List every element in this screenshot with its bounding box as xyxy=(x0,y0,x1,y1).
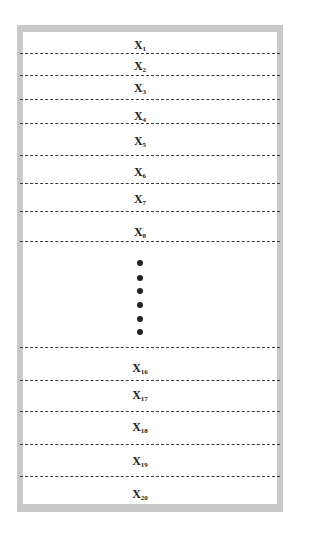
row-label: X7 xyxy=(100,193,180,209)
row-label-name: X xyxy=(134,81,143,95)
row-label-subscript: 3 xyxy=(143,88,147,96)
row-label-name: X xyxy=(134,38,143,52)
row-label-name: X xyxy=(132,388,141,402)
divider-line xyxy=(20,380,280,381)
row-label-subscript: 18 xyxy=(141,427,148,435)
row-label-name: X xyxy=(132,361,141,375)
row-label: X6 xyxy=(100,166,180,182)
row-label-name: X xyxy=(134,134,143,148)
row-label: X8 xyxy=(100,226,180,242)
divider-line xyxy=(20,155,280,156)
dot-icon xyxy=(137,329,143,335)
row-label-subscript: 4 xyxy=(143,116,147,124)
divider-line xyxy=(20,444,280,445)
divider-line xyxy=(20,183,280,184)
row-label-subscript: 2 xyxy=(143,66,147,74)
row-label-name: X xyxy=(134,59,143,73)
row-label: X16 xyxy=(100,362,180,378)
dot-icon xyxy=(137,316,143,322)
divider-line xyxy=(20,211,280,212)
row-label-name: X xyxy=(134,192,143,206)
row-label-name: X xyxy=(134,109,143,123)
divider-line xyxy=(20,476,280,477)
row-label-name: X xyxy=(132,487,141,501)
row-label-subscript: 6 xyxy=(143,172,147,180)
row-label-subscript: 1 xyxy=(143,45,147,53)
row-label: X19 xyxy=(100,455,180,471)
dot-icon xyxy=(137,302,143,308)
row-label: X1 xyxy=(100,39,180,55)
dot-icon xyxy=(137,275,143,281)
row-label: X2 xyxy=(100,60,180,76)
row-label: X5 xyxy=(100,135,180,151)
row-label: X17 xyxy=(100,389,180,405)
divider-line xyxy=(20,99,280,100)
divider-line xyxy=(20,347,280,348)
dot-icon xyxy=(137,288,143,294)
row-label: X18 xyxy=(100,421,180,437)
row-label-subscript: 17 xyxy=(141,395,148,403)
row-label-subscript: 7 xyxy=(143,199,147,207)
row-label-subscript: 20 xyxy=(141,494,148,502)
row-label: X20 xyxy=(100,488,180,504)
row-label-subscript: 19 xyxy=(141,461,148,469)
row-label-subscript: 16 xyxy=(141,368,148,376)
row-label-name: X xyxy=(134,225,143,239)
dot-icon xyxy=(137,260,143,266)
row-label: X3 xyxy=(100,82,180,98)
row-label-name: X xyxy=(132,420,141,434)
row-label-subscript: 8 xyxy=(143,232,147,240)
row-label-subscript: 5 xyxy=(143,141,147,149)
divider-line xyxy=(20,411,280,412)
row-label: X4 xyxy=(100,110,180,126)
row-label-name: X xyxy=(134,165,143,179)
row-label-name: X xyxy=(132,454,141,468)
